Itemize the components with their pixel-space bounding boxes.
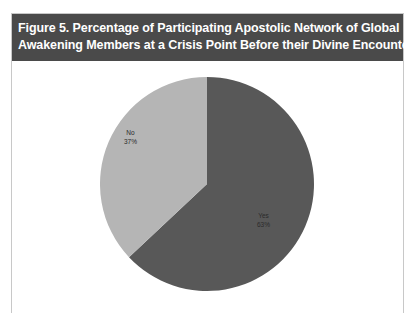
figure-title-line-1: Figure 5. Percentage of Participating Ap… — [18, 20, 397, 37]
pie-label-no-value: 37% — [124, 138, 137, 147]
figure-title-line-2: Awakening Members at a Crisis Point Befo… — [18, 37, 397, 54]
pie-chart: No 37% Yes 63% — [100, 77, 314, 291]
pie-chart-svg — [100, 77, 314, 291]
figure-container: Figure 5. Percentage of Participating Ap… — [11, 13, 404, 313]
pie-label-yes: Yes 63% — [257, 212, 270, 229]
pie-label-yes-value: 63% — [257, 221, 270, 230]
pie-label-yes-name: Yes — [257, 212, 270, 221]
pie-label-no-name: No — [124, 129, 137, 138]
figure-title: Figure 5. Percentage of Participating Ap… — [12, 14, 403, 61]
plot-area: No 37% Yes 63% — [12, 61, 403, 314]
pie-label-no: No 37% — [124, 129, 137, 146]
